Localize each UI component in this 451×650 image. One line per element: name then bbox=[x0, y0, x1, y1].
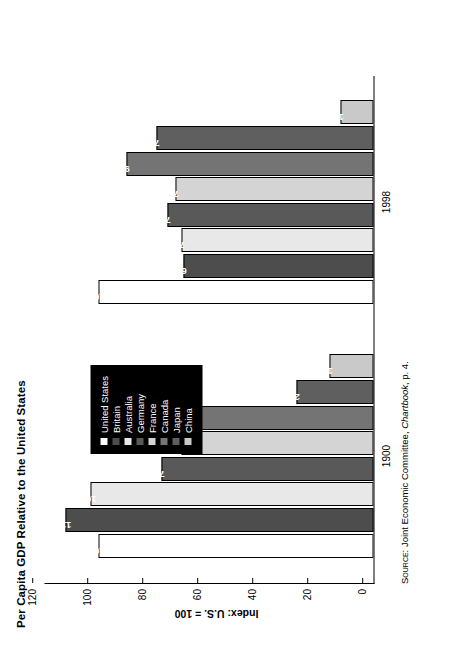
bar[interactable]: 70 bbox=[181, 431, 374, 455]
legend-swatch bbox=[100, 438, 107, 445]
legend-swatch bbox=[184, 438, 191, 445]
bar[interactable]: 72 bbox=[175, 177, 373, 201]
plot-area: 0204060801001201900100112103777066281619… bbox=[44, 76, 374, 584]
legend-label: Germany bbox=[135, 394, 145, 433]
rotated-chart-canvas: Per Capita GDP Relative to the United St… bbox=[0, 0, 451, 650]
bar-value-label: 70 bbox=[173, 240, 184, 251]
y-axis-label: Index: U.S. = 100 bbox=[136, 608, 296, 620]
legend-label: Australia bbox=[123, 396, 133, 433]
source-prefix: Source: bbox=[398, 550, 409, 584]
bar-value-label: 28 bbox=[289, 392, 300, 403]
y-axis-tick: 0 bbox=[357, 583, 368, 595]
legend-item[interactable]: France bbox=[147, 376, 157, 445]
bar-value-label: 75 bbox=[159, 215, 170, 226]
bar[interactable]: 90 bbox=[126, 152, 374, 176]
bar[interactable]: 79 bbox=[156, 126, 373, 150]
source-note: Source: Joint Economic Committee, Chartb… bbox=[398, 361, 409, 584]
y-axis-tick: 20 bbox=[302, 583, 313, 600]
y-axis-tick-mark bbox=[86, 578, 88, 583]
legend-item[interactable]: Australia bbox=[123, 376, 133, 445]
legend-item[interactable]: Britain bbox=[111, 376, 121, 445]
bar[interactable]: 70 bbox=[181, 228, 374, 252]
bar[interactable]: 69 bbox=[183, 254, 373, 278]
y-axis-tick: 40 bbox=[247, 583, 258, 600]
y-axis-tick: 60 bbox=[192, 583, 203, 600]
y-axis-tick: 100 bbox=[82, 583, 93, 606]
legend-item[interactable]: China bbox=[183, 376, 193, 445]
legend-label: Britain bbox=[111, 406, 121, 433]
bar[interactable]: 100 bbox=[98, 280, 373, 304]
legend-swatch bbox=[148, 438, 155, 445]
bar-value-label: 69 bbox=[176, 266, 187, 277]
legend-label: France bbox=[147, 403, 157, 433]
legend-label: United States bbox=[99, 376, 109, 433]
y-axis-tick-mark bbox=[251, 578, 253, 583]
bar[interactable]: 66 bbox=[192, 406, 374, 430]
legend-item[interactable]: Canada bbox=[159, 376, 169, 445]
bar-value-label: 12 bbox=[333, 112, 344, 123]
bar[interactable]: 16 bbox=[329, 354, 373, 378]
bar[interactable]: 28 bbox=[296, 380, 373, 404]
bar-value-label: 103 bbox=[80, 494, 96, 505]
y-axis-tick: 120 bbox=[27, 583, 38, 606]
source-suffix: , p. 4. bbox=[398, 361, 409, 385]
bar-value-label: 100 bbox=[88, 292, 104, 303]
bar-group: 10069707572907912 bbox=[44, 100, 373, 303]
legend-swatch bbox=[172, 438, 179, 445]
legend-label: Canada bbox=[159, 400, 169, 433]
y-axis-tick: 80 bbox=[137, 583, 148, 600]
legend-label: China bbox=[183, 408, 193, 433]
legend-item[interactable]: Japan bbox=[171, 376, 181, 445]
source-body: Joint Economic Committee, bbox=[398, 429, 409, 550]
bar-value-label: 79 bbox=[148, 138, 159, 149]
y-axis-tick-mark bbox=[141, 578, 143, 583]
bar[interactable]: 12 bbox=[340, 100, 373, 124]
legend-item[interactable]: United States bbox=[99, 376, 109, 445]
legend-swatch bbox=[124, 438, 131, 445]
bar[interactable]: 100 bbox=[98, 534, 373, 558]
bar-value-label: 77 bbox=[154, 469, 165, 480]
legend-swatch bbox=[112, 438, 119, 445]
legend-label: Japan bbox=[171, 407, 181, 433]
bar-value-label: 100 bbox=[88, 546, 104, 557]
bar[interactable]: 112 bbox=[65, 508, 373, 532]
y-axis-tick-mark bbox=[306, 578, 308, 583]
y-axis-tick-mark bbox=[361, 578, 363, 583]
bar-value-label: 112 bbox=[55, 520, 70, 531]
source-italic: Chartbook bbox=[398, 385, 409, 429]
bar-value-label: 16 bbox=[322, 366, 333, 377]
legend-swatch bbox=[136, 438, 143, 445]
chart-legend: United StatesBritainAustraliaGermanyFran… bbox=[90, 365, 202, 454]
x-axis-tick-label: 1998 bbox=[380, 191, 391, 213]
legend-item[interactable]: Germany bbox=[135, 376, 145, 445]
page-title: Per Capita GDP Relative to the United St… bbox=[14, 380, 26, 628]
y-axis-tick-mark bbox=[196, 578, 198, 583]
bar[interactable]: 77 bbox=[161, 457, 373, 481]
bar[interactable]: 75 bbox=[167, 203, 373, 227]
x-axis-tick-label: 1900 bbox=[380, 445, 391, 467]
y-axis-tick-mark bbox=[31, 578, 33, 583]
bar-value-label: 72 bbox=[168, 189, 179, 200]
bar-value-label: 90 bbox=[118, 164, 129, 175]
legend-swatch bbox=[160, 438, 167, 445]
bar[interactable]: 103 bbox=[90, 482, 373, 506]
